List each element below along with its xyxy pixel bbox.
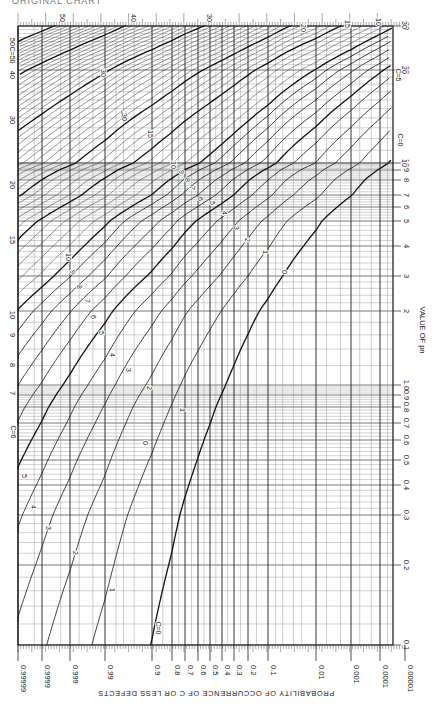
left-pn-label: 50 bbox=[8, 38, 17, 46]
curve-label: 7 bbox=[189, 186, 196, 190]
curve-label: 6 bbox=[197, 197, 204, 201]
probability-tick-label: 0.2 bbox=[249, 665, 258, 675]
probability-tick-label: 0.3 bbox=[235, 665, 244, 675]
poisson-probability-chart: 0.999990.99990.9990.990.90.80.70.60.50.4… bbox=[0, 0, 432, 708]
probability-tick-label: 0.99 bbox=[106, 665, 115, 680]
curve-label: C=50 bbox=[9, 47, 16, 64]
curve-label: 1 bbox=[262, 250, 269, 254]
pn-tick-label: 3 bbox=[402, 274, 411, 278]
probability-tick-label: 0.01 bbox=[317, 665, 326, 680]
poisson-curve-minor bbox=[19, 26, 255, 169]
pn-tick-label: 2 bbox=[402, 309, 411, 313]
poisson-curve-c-0 bbox=[151, 160, 391, 645]
curve-label: 9 bbox=[69, 270, 76, 274]
pn-tick-label: 6 bbox=[402, 205, 411, 209]
curve-label: 15 bbox=[344, 20, 351, 28]
curve-label: 5 bbox=[98, 331, 105, 335]
pn-tick-label: 4 bbox=[402, 244, 411, 248]
probability-tick-label: 0.99999 bbox=[19, 665, 28, 692]
x-axis-title: PROBABILITY OF OCCURRENCE OF C OR LESS D… bbox=[98, 689, 335, 698]
pn-tick-label: 7 bbox=[402, 193, 411, 197]
pn-tick-label: 8 bbox=[402, 178, 411, 182]
poisson-curve-c-30 bbox=[19, 26, 206, 131]
curve-label: 5 bbox=[21, 474, 28, 478]
curve-label: 9 bbox=[178, 170, 185, 174]
curve-label: 30 bbox=[401, 21, 408, 29]
poisson-curve-minor bbox=[18, 26, 373, 280]
poisson-curve-minor bbox=[20, 26, 111, 66]
poisson-curve-c-2 bbox=[47, 108, 392, 646]
poisson-curve-minor bbox=[18, 26, 330, 227]
curve-label: 30 bbox=[206, 14, 213, 22]
pn-tick-label: 0.8 bbox=[402, 402, 411, 412]
curve-label: 4 bbox=[30, 505, 37, 509]
curve-label: C=6 bbox=[10, 425, 17, 438]
curve-label: C=0 bbox=[397, 133, 404, 146]
pn-tick-label: 0.2 bbox=[402, 560, 411, 570]
poisson-curve-minor bbox=[18, 26, 172, 106]
probability-tick-label: 0.9999 bbox=[43, 665, 52, 688]
poisson-curve-minor bbox=[20, 26, 132, 79]
pn-tick-label: 0.4 bbox=[402, 480, 411, 490]
pn-tick-label: 0.1 bbox=[402, 640, 411, 650]
curve-label: 2 bbox=[72, 551, 79, 555]
poisson-curve-minor bbox=[18, 26, 221, 145]
probability-tick-label: 0.6 bbox=[199, 665, 208, 675]
probability-tick-label: 0.7 bbox=[186, 665, 195, 675]
curve-label: 2 bbox=[244, 238, 251, 242]
curve-label: 10 bbox=[401, 159, 408, 167]
curve-label: 15 bbox=[147, 130, 154, 138]
left-pn-label: 7 bbox=[8, 391, 17, 395]
probability-tick-label: 0.999 bbox=[71, 665, 80, 684]
left-pn-label: 30 bbox=[8, 116, 17, 124]
curve-label: 40 bbox=[130, 14, 137, 22]
curve-label: 20 bbox=[300, 24, 307, 32]
left-pn-label: 10 bbox=[8, 311, 17, 319]
curve-label: 4 bbox=[221, 211, 228, 215]
probability-tick-label: 0.1 bbox=[269, 665, 278, 675]
y-axis-title: VALUE OF pn bbox=[418, 307, 427, 354]
curve-label: 10 bbox=[170, 161, 177, 169]
curve-label: 5 bbox=[209, 201, 216, 205]
poisson-curve-c-9 bbox=[18, 36, 388, 331]
curve-label: 8 bbox=[76, 285, 83, 289]
curve-label: 7 bbox=[84, 299, 91, 303]
probability-tick-label: 0.8 bbox=[173, 665, 182, 675]
curve-label: 30 bbox=[121, 113, 128, 121]
curve-label: 4 bbox=[109, 353, 116, 357]
curve-label: 50 bbox=[59, 14, 66, 22]
pn-tick-label: 1.0 bbox=[402, 380, 411, 390]
curve-label: 0 bbox=[281, 270, 288, 274]
curve-label: 2 bbox=[146, 386, 153, 390]
left-pn-label: 15 bbox=[8, 236, 17, 244]
left-pn-label: 8 bbox=[8, 363, 17, 367]
curve-label: 20 bbox=[401, 66, 408, 74]
curve-label: 1 bbox=[109, 588, 116, 592]
pn-tick-label: 0.6 bbox=[402, 435, 411, 445]
poisson-curve-minor bbox=[18, 26, 88, 57]
probability-tick-label: 0.4 bbox=[223, 665, 232, 675]
curve-label: 3 bbox=[45, 526, 52, 530]
chart-labels: 0.999990.99990.9990.990.90.80.70.60.50.4… bbox=[8, 14, 427, 698]
curve-label: 10 bbox=[375, 18, 382, 26]
left-pn-label: 9 bbox=[8, 333, 17, 337]
pn-tick-label: 0.7 bbox=[402, 418, 411, 428]
curve-label: 3 bbox=[125, 368, 132, 372]
pn-tick-label: 9 bbox=[402, 168, 411, 172]
probability-tick-label: 0.0001 bbox=[381, 665, 390, 688]
poisson-curve-minor bbox=[20, 26, 67, 46]
probability-tick-label: 0.001 bbox=[352, 665, 361, 684]
curve-label: 1 bbox=[179, 408, 186, 412]
curve-label: 6 bbox=[90, 315, 97, 319]
pn-tick-label: 5 bbox=[402, 219, 411, 223]
left-pn-label: 40 bbox=[8, 71, 17, 79]
curve-label: 3 bbox=[233, 226, 240, 230]
curve-label: C=5 bbox=[395, 68, 402, 81]
probability-tick-label: 0.00001 bbox=[406, 665, 415, 692]
poisson-curve-minor bbox=[18, 26, 263, 176]
probability-tick-label: 0.9 bbox=[153, 665, 162, 675]
curve-label: 30 bbox=[100, 69, 107, 77]
pn-tick-label: 0.9 bbox=[402, 390, 411, 400]
curve-label: 8 bbox=[184, 178, 191, 182]
left-pn-label: 20 bbox=[8, 181, 17, 189]
